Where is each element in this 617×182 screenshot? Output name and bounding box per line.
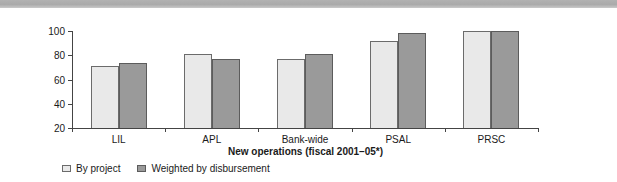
legend-swatch-icon	[137, 165, 146, 172]
x-axis-tick	[352, 128, 353, 132]
bar-prsc-by-project[interactable]	[463, 31, 491, 128]
bar-lil-by-project[interactable]	[91, 66, 119, 128]
x-axis-tick	[445, 128, 446, 132]
x-axis-tick	[165, 128, 166, 132]
y-axis-tick-label: 40	[54, 98, 65, 109]
bar-group	[445, 31, 538, 128]
bar-psal-by-project[interactable]	[370, 41, 398, 128]
x-axis-title: New operations (fiscal 2001–05*)	[72, 146, 539, 157]
x-axis-line	[72, 128, 539, 129]
x-axis-category-label: Bank-wide	[282, 134, 329, 145]
y-axis-tick-label: 80	[54, 50, 65, 61]
bar-bank-wide-weighted[interactable]	[305, 54, 333, 128]
bar-apl-by-project[interactable]	[184, 54, 212, 128]
bar-apl-weighted[interactable]	[212, 59, 240, 128]
bar-prsc-weighted[interactable]	[491, 31, 519, 128]
legend-label: Weighted by disbursement	[151, 163, 269, 174]
bar-group	[258, 31, 351, 128]
y-axis-tick-label: 100	[48, 26, 65, 37]
y-axis-tick-label: 60	[54, 74, 65, 85]
x-axis-category-label: PSAL	[385, 134, 411, 145]
legend-item-by-project[interactable]: By project	[62, 163, 120, 174]
bar-lil-weighted[interactable]	[119, 63, 147, 128]
x-axis-category-label: LIL	[112, 134, 126, 145]
bar-bank-wide-by-project[interactable]	[277, 59, 305, 128]
x-axis-tick	[258, 128, 259, 132]
legend-label: By project	[76, 163, 120, 174]
y-axis-tick-label: 20	[54, 123, 65, 134]
x-axis-tick	[538, 128, 539, 132]
legend-swatch-icon	[62, 165, 71, 172]
bar-group	[165, 31, 258, 128]
chart-figure: Percent satisfactory outcome 20406080100…	[0, 0, 617, 182]
top-gray-band	[0, 0, 617, 8]
plot-area: 20406080100	[72, 31, 538, 128]
bar-psal-weighted[interactable]	[398, 33, 426, 128]
x-axis-category-label: PRSC	[477, 134, 505, 145]
x-axis-tick	[72, 128, 73, 132]
chart-legend: By projectWeighted by disbursement	[62, 163, 270, 174]
bar-group	[352, 31, 445, 128]
bar-group	[72, 31, 165, 128]
x-axis-category-label: APL	[202, 134, 221, 145]
legend-item-weighted-by-disbursement[interactable]: Weighted by disbursement	[137, 163, 269, 174]
